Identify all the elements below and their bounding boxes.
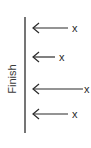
arrow-2 — [33, 52, 55, 62]
arrow-4 — [33, 109, 68, 119]
arrow-1 — [33, 23, 68, 33]
x-mark-2: x — [59, 52, 65, 63]
x-mark-3: x — [84, 84, 90, 95]
arrow-3 — [33, 84, 83, 94]
x-mark-1: x — [72, 23, 78, 34]
x-mark-4: x — [72, 109, 78, 120]
force-diagram: Finish x x x x — [0, 0, 91, 148]
finish-label: Finish — [7, 64, 18, 93]
